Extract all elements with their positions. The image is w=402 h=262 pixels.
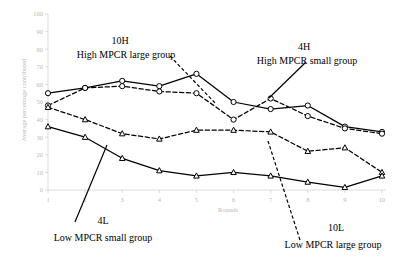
x-tick-label: 1 [46,196,49,203]
y-tick-label: 20 [37,151,44,158]
series-4l [45,124,385,190]
data-point-marker [157,84,162,89]
annot-10l-code: 10L [328,222,344,233]
x-tick-label: 7 [269,196,273,203]
annot-10h-code: 10H [111,35,128,46]
data-point-marker [268,129,274,134]
data-point-marker [231,99,236,104]
data-point-marker [342,126,347,131]
series-10l [45,104,385,174]
data-point-marker [379,131,384,136]
data-point-marker [305,179,311,184]
x-tick-label: 4 [158,196,162,203]
series-10h [45,84,384,137]
data-point-marker [268,106,273,111]
x-tick-label: 10 [379,196,386,203]
data-point-marker [119,131,125,136]
data-point-marker [119,155,125,160]
x-tick-label: 9 [343,196,346,203]
data-point-marker [120,84,125,89]
leader-line-4l [75,145,107,222]
data-point-marker [120,78,125,83]
x-tick-label: 6 [232,196,236,203]
data-point-marker [231,117,236,122]
data-point-marker [231,127,237,132]
x-axis-title: Rounds [218,206,238,213]
data-point-marker [83,85,88,90]
y-tick-label: 70 [37,63,44,70]
y-tick-label: 10 [37,169,44,176]
data-point-marker [194,173,200,178]
x-tick-label: 8 [306,196,309,203]
x-axis: 12345678910 [46,190,386,203]
annot-4l-desc: Low MPCR small group [54,232,153,243]
data-point-marker [305,148,311,153]
leader-line-4h [269,62,306,98]
annot-10h-desc: High MPCR large group [77,49,175,60]
data-point-marker [45,91,50,96]
annot-4l-code: 4L [97,215,108,226]
y-tick-label: 80 [37,46,44,53]
y-tick-label: 40 [37,116,44,123]
chart-container: 0102030405060708090100 12345678910 Avera… [0,0,402,262]
x-tick-label: 3 [121,196,124,203]
data-point-marker [342,184,348,189]
y-tick-label: 60 [37,81,44,88]
data-point-marker [305,113,310,118]
data-point-marker [268,173,274,178]
data-point-marker [342,145,348,150]
series-line-10l [48,107,382,172]
annot-10l-desc: Low MPCR large group [285,239,382,250]
data-point-marker [157,168,163,173]
data-point-marker [231,169,237,174]
y-tick-label: 90 [37,28,44,35]
x-tick-label: 5 [195,196,198,203]
data-point-marker [305,103,310,108]
data-point-marker [157,89,162,94]
y-tick-label: 0 [40,186,43,193]
data-point-marker [157,136,163,141]
y-tick-label: 30 [37,134,44,141]
data-point-marker [82,134,88,139]
data-point-marker [194,127,200,132]
y-tick-label: 100 [33,10,43,17]
series-line-10h [48,86,382,134]
y-axis: 0102030405060708090100 [33,10,48,193]
leader-line-10l [268,141,300,240]
data-point-marker [194,71,199,76]
data-point-marker [194,91,199,96]
y-tick-label: 50 [37,98,44,105]
annot-4h-code: 4H [298,41,310,52]
data-point-marker [45,124,51,129]
y-axis-title: Average percentage contributed [20,58,27,141]
data-point-marker [82,117,88,122]
series-line-4l [48,127,382,188]
annot-4h-desc: High MPCR small group [257,55,357,66]
